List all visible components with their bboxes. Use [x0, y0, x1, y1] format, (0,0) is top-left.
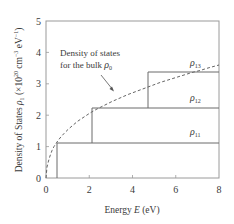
svg-text:5: 5 — [36, 16, 41, 27]
rho13-step — [148, 72, 219, 108]
rho12-label: ρ12 — [189, 92, 201, 104]
rho13-label: ρ13 — [189, 57, 201, 69]
svg-text:0: 0 — [44, 184, 49, 195]
quantum-well-steps — [57, 72, 219, 178]
svg-text:1: 1 — [36, 141, 41, 152]
tick-marks — [46, 52, 176, 178]
density-of-states-chart: Density of states for the bulk ρ0 ρ13 ρ1… — [0, 0, 234, 224]
y-tick-labels: 0 1 2 3 4 5 — [36, 16, 41, 184]
y-axis-label: Density of States ρ1 (×1020 cm−3 eV−1) — [13, 28, 25, 173]
bulk-label-line1: Density of states — [60, 48, 120, 58]
bulk-dos-curve — [46, 65, 219, 178]
svg-text:0: 0 — [36, 173, 41, 184]
arrow-head-icon — [110, 87, 115, 92]
svg-text:4: 4 — [36, 47, 41, 58]
svg-text:3: 3 — [36, 78, 41, 89]
svg-text:6: 6 — [173, 184, 178, 195]
rho11-step — [57, 143, 219, 178]
x-tick-labels: 0 2 4 6 8 — [44, 184, 222, 195]
svg-text:8: 8 — [217, 184, 222, 195]
bulk-label-line2: for the bulk ρ0 — [60, 59, 112, 71]
rho11-label: ρ11 — [189, 126, 201, 138]
svg-text:2: 2 — [36, 110, 41, 121]
x-axis-label: Energy E (eV) — [104, 205, 159, 216]
svg-text:4: 4 — [130, 184, 135, 195]
svg-text:2: 2 — [87, 184, 92, 195]
